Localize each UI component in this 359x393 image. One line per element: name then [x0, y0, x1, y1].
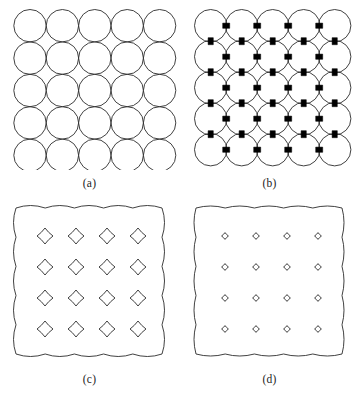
pore-void — [99, 321, 115, 337]
particle-circle — [195, 72, 227, 104]
particle-circle — [143, 107, 175, 139]
neck-vertical — [208, 131, 213, 138]
particle-circle — [14, 139, 46, 170]
particle-circle — [226, 10, 258, 42]
particle-circle — [226, 41, 258, 73]
pore-void — [284, 264, 291, 271]
particle-circle — [319, 72, 351, 104]
particle-circle — [79, 10, 111, 42]
panel-c-svg — [0, 196, 179, 366]
neck-vertical — [332, 131, 337, 138]
pore-void — [253, 295, 260, 302]
particle-circle — [111, 10, 143, 42]
panel-c: (c) — [0, 196, 179, 392]
particle-circle — [79, 74, 111, 106]
neck-vertical — [208, 69, 213, 76]
pore-void — [130, 228, 146, 244]
particle-circle — [195, 10, 227, 42]
panel-d-artwork — [180, 196, 359, 366]
particle-circle — [14, 74, 46, 106]
particle-circle — [79, 107, 111, 139]
scalloped-boundary — [14, 206, 165, 357]
neck-vertical — [239, 100, 244, 107]
neck-horizontal — [316, 54, 323, 59]
pore-void — [68, 228, 84, 244]
panel-a: (a) — [0, 0, 179, 196]
panel-d-caption: (d) — [180, 373, 359, 386]
neck-vertical — [301, 131, 306, 138]
panel-a-svg — [0, 0, 179, 170]
particle-circle — [79, 42, 111, 74]
pore-void — [130, 290, 146, 306]
pore-void — [99, 259, 115, 275]
pore-void — [37, 321, 53, 337]
neck-vertical — [239, 131, 244, 138]
neck-horizontal — [285, 116, 292, 121]
particle-circle — [111, 139, 143, 170]
neck-horizontal — [254, 147, 261, 152]
pore-void — [253, 326, 260, 333]
pore-void — [222, 295, 229, 302]
particle-circle — [143, 42, 175, 74]
particle-circle — [143, 139, 175, 170]
neck-horizontal — [254, 23, 261, 28]
particle-circle — [46, 74, 78, 106]
pore-void — [253, 233, 260, 240]
particle-circle — [288, 134, 320, 166]
particle-circle — [257, 41, 289, 73]
particle-circle — [319, 103, 351, 135]
pore-void — [37, 290, 53, 306]
neck-vertical — [270, 69, 275, 76]
particle-circle — [288, 10, 320, 42]
neck-vertical — [208, 38, 213, 45]
neck-vertical — [239, 38, 244, 45]
pore-void — [130, 259, 146, 275]
panel-d: (d) — [180, 196, 359, 392]
neck-vertical — [270, 131, 275, 138]
pore-void — [222, 233, 229, 240]
neck-vertical — [270, 38, 275, 45]
pore-void — [284, 233, 291, 240]
particle-circle — [288, 72, 320, 104]
panel-c-caption: (c) — [0, 373, 179, 386]
neck-horizontal — [254, 54, 261, 59]
particle-circle — [143, 74, 175, 106]
pore-void — [68, 321, 84, 337]
neck-horizontal — [285, 85, 292, 90]
particle-circle — [226, 72, 258, 104]
pore-void — [130, 321, 146, 337]
particle-circle — [46, 139, 78, 170]
pore-void — [99, 290, 115, 306]
neck-horizontal — [285, 23, 292, 28]
particle-circle — [143, 10, 175, 42]
panel-b-svg — [180, 0, 359, 170]
panel-b: (b) — [180, 0, 359, 196]
particle-circle — [288, 41, 320, 73]
neck-vertical — [239, 69, 244, 76]
panel-b-artwork — [180, 0, 359, 170]
scalloped-boundary — [194, 206, 344, 356]
pore-void — [68, 290, 84, 306]
neck-vertical — [332, 38, 337, 45]
panel-a-artwork — [0, 0, 179, 170]
panel-a-caption: (a) — [0, 177, 179, 190]
particle-circle — [195, 41, 227, 73]
particle-circle — [319, 41, 351, 73]
particle-circle — [111, 74, 143, 106]
neck-horizontal — [223, 147, 230, 152]
neck-vertical — [332, 100, 337, 107]
particle-circle — [257, 10, 289, 42]
particle-circle — [226, 103, 258, 135]
panel-d-svg — [180, 196, 359, 366]
particle-circle — [319, 134, 351, 166]
pore-void — [222, 326, 229, 333]
pore-void — [253, 264, 260, 271]
particle-circle — [288, 103, 320, 135]
pore-void — [315, 264, 322, 271]
neck-horizontal — [223, 23, 230, 28]
particle-circle — [46, 10, 78, 42]
pore-void — [284, 326, 291, 333]
neck-horizontal — [223, 85, 230, 90]
neck-horizontal — [316, 116, 323, 121]
pore-void — [315, 295, 322, 302]
